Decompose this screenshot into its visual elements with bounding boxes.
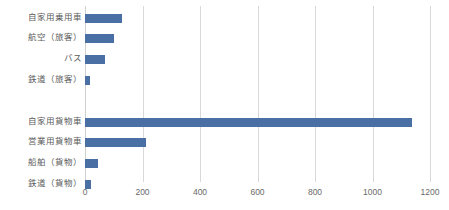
gridline-800	[315, 6, 316, 182]
x-tick-label: 800	[295, 186, 335, 198]
x-tick-label: 1000	[353, 186, 393, 198]
x-tick-label: 400	[180, 186, 220, 198]
bar-chart: 自家用乗用車航空（旅客）バス鉄道（旅客）自家用貨物車営業用貨物車船舶（貨物）鉄道…	[0, 0, 449, 210]
category-label: 自家用貨物車	[0, 116, 82, 126]
category-label: バス	[0, 53, 82, 63]
category-label: 鉄道（旅客）	[0, 74, 82, 84]
category-label: 航空（旅客）	[0, 32, 82, 42]
plot-area	[85, 6, 430, 182]
value-axis-tick-labels: 020040060080010001200	[0, 186, 449, 200]
x-tick-label: 1200	[410, 186, 449, 198]
bar	[85, 34, 114, 43]
gridline-1000	[373, 6, 374, 182]
bar	[85, 76, 90, 85]
category-axis-labels: 自家用乗用車航空（旅客）バス鉄道（旅客）自家用貨物車営業用貨物車船舶（貨物）鉄道…	[0, 8, 82, 182]
x-tick-label: 0	[65, 186, 105, 198]
gridline-400	[200, 6, 201, 182]
bar	[85, 159, 98, 168]
x-tick-label: 600	[238, 186, 278, 198]
bar	[85, 14, 122, 23]
bar	[85, 55, 105, 64]
x-tick-label: 200	[123, 186, 163, 198]
category-label: 営業用貨物車	[0, 136, 82, 146]
gridline-1200	[430, 6, 431, 182]
bar	[85, 138, 146, 147]
bar	[85, 118, 412, 127]
gridline-600	[258, 6, 259, 182]
gridline-0	[85, 6, 86, 182]
category-label: 自家用乗用車	[0, 12, 82, 22]
gridline-200	[143, 6, 144, 182]
category-label: 船舶（貨物）	[0, 157, 82, 167]
